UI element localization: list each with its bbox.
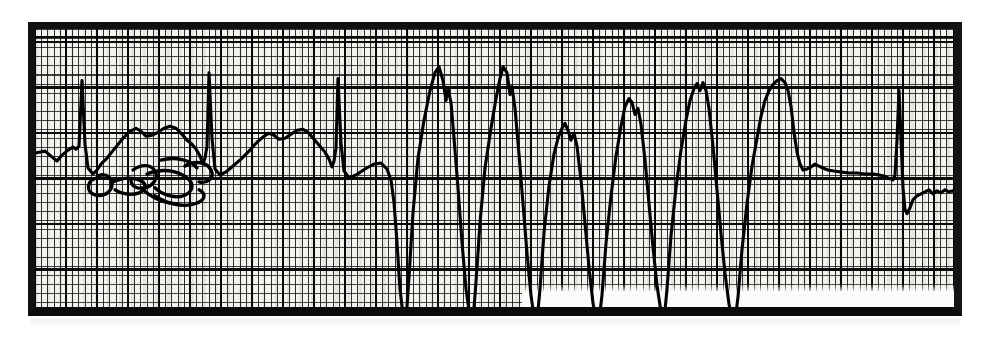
scribble-stroke-1 [111, 178, 145, 194]
ecg-strip-frame [28, 22, 962, 316]
scribble-strokes [88, 158, 212, 205]
scribble-stroke-0 [88, 175, 111, 196]
ecg-page [0, 0, 990, 363]
page-shadow [30, 318, 960, 328]
ecg-strip-paper [35, 29, 954, 307]
handwritten-annotation [35, 29, 954, 307]
